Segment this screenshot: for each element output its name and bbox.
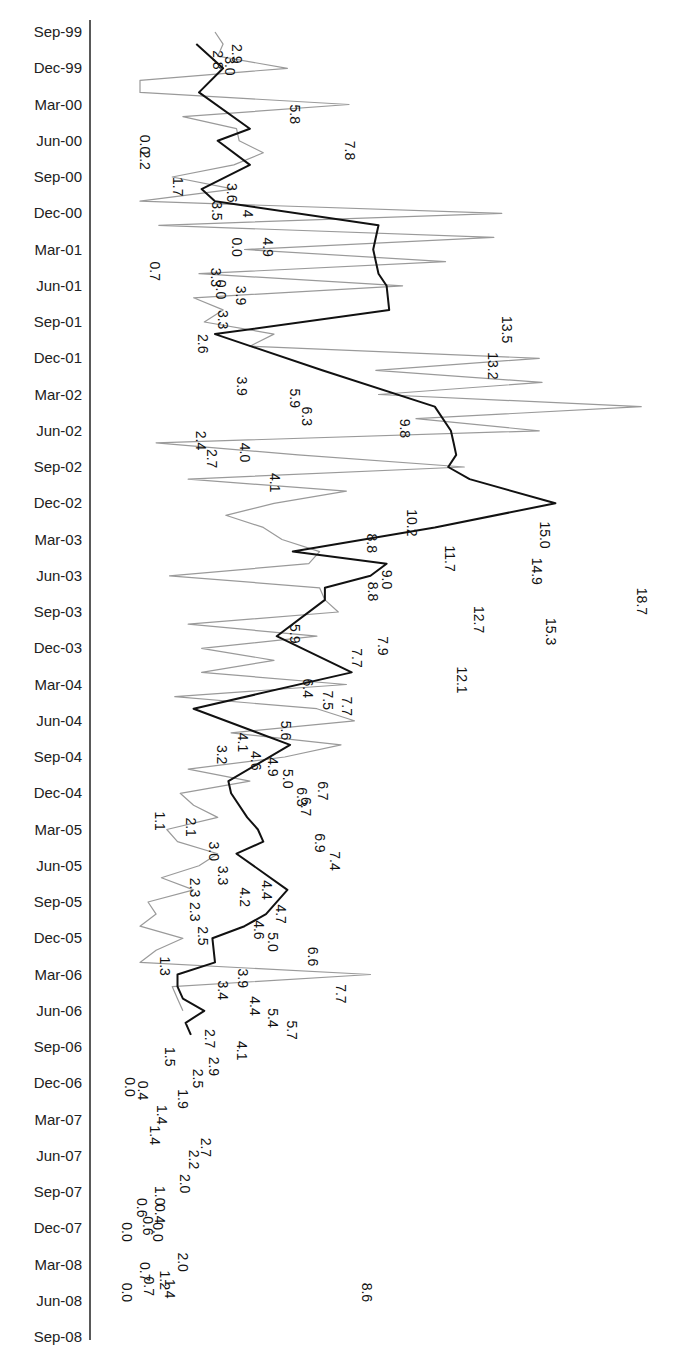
data-point-label: 5.0 — [280, 769, 296, 789]
data-point-label: 5.6 — [278, 721, 294, 741]
time-tick-label: Sep-99 — [34, 23, 82, 40]
data-point-label: 3.5 — [209, 201, 225, 221]
data-point-label: 12.7 — [471, 606, 487, 633]
data-point-label: 7.8 — [342, 141, 358, 161]
data-point-label: 4.6 — [251, 920, 267, 940]
time-tick-label: Dec-02 — [34, 494, 82, 511]
time-tick-label: Dec-99 — [34, 59, 82, 76]
data-point-label: 7.4 — [327, 851, 343, 871]
data-point-label: 2.6 — [195, 334, 211, 354]
data-point-label: 6.7 — [298, 797, 314, 817]
time-tick-label: Dec-00 — [34, 204, 82, 221]
data-point-label: 4.6 — [248, 751, 264, 771]
data-point-label: 6.3 — [299, 407, 315, 427]
time-tick-label: Sep-05 — [34, 893, 82, 910]
time-tick-label: Dec-05 — [34, 929, 82, 946]
data-point-label: 4.4 — [247, 996, 263, 1016]
data-point-label: 0.0 — [119, 1283, 135, 1303]
data-point-label: 8.8 — [365, 582, 381, 602]
time-tick-label: Jun-05 — [36, 857, 82, 874]
data-point-label: 4 — [240, 210, 256, 218]
data-point-label: 6.7 — [315, 781, 331, 801]
data-point-label: 18.7 — [634, 588, 650, 615]
data-labels: 2.92.83.05.87.80.02.21.73.63.540.04.90.7… — [119, 44, 650, 1302]
data-point-label: 7.9 — [375, 636, 391, 656]
time-tick-label: Dec-03 — [34, 639, 82, 656]
time-tick-label: Dec-06 — [34, 1074, 82, 1091]
data-point-label: 0.7 — [141, 1277, 157, 1297]
time-tick-label: Mar-00 — [34, 96, 82, 113]
data-point-label: 7.7 — [349, 648, 365, 668]
data-point-label: 15.0 — [537, 521, 553, 548]
data-point-label: 0.0 — [119, 1222, 135, 1242]
data-point-label: 2.7 — [204, 449, 220, 469]
data-point-label: 4.7 — [273, 904, 289, 924]
data-point-label: 3.9 — [233, 286, 249, 306]
data-point-label: 2.3 — [187, 878, 203, 898]
data-point-label: 7.5 — [320, 691, 336, 711]
time-tick-label: Dec-01 — [34, 349, 82, 366]
data-point-label: 4.9 — [260, 237, 276, 257]
time-tick-label: Mar-05 — [34, 821, 82, 838]
time-tick-label: Sep-00 — [34, 168, 82, 185]
data-point-label: 1.0 — [152, 1186, 168, 1206]
data-point-label: 4.0 — [237, 443, 253, 463]
time-tick-label: Jun-06 — [36, 1002, 82, 1019]
time-tick-label: Sep-02 — [34, 458, 82, 475]
time-tick-label: Jun-03 — [36, 567, 82, 584]
time-tick-label: Mar-01 — [34, 241, 82, 258]
time-tick-label: Mar-03 — [34, 531, 82, 548]
data-point-label: 4.1 — [234, 1041, 250, 1061]
data-point-label: 3.9 — [234, 376, 250, 396]
time-tick-label: Mar-06 — [34, 966, 82, 983]
data-point-label: 2.5 — [190, 1069, 206, 1089]
time-tick-label: Mar-04 — [34, 676, 82, 693]
data-point-label: 0.0 — [213, 280, 229, 300]
time-tick-label: Sep-08 — [34, 1328, 82, 1345]
data-point-label: 0.6 — [134, 1198, 150, 1218]
data-point-label: 3.0 — [222, 56, 238, 76]
time-tick-label: Jun-07 — [36, 1147, 82, 1164]
data-point-label: 2.0 — [175, 1252, 191, 1272]
time-tick-label: Sep-03 — [34, 603, 82, 620]
time-tick-label: Mar-08 — [34, 1256, 82, 1273]
data-point-label: 1.9 — [175, 1089, 191, 1109]
time-tick-label: Sep-06 — [34, 1038, 82, 1055]
data-point-label: 6.6 — [305, 947, 321, 967]
time-tick-label: Sep-07 — [34, 1183, 82, 1200]
data-point-label: 4.4 — [259, 880, 275, 900]
data-point-label: 4.1 — [267, 473, 283, 493]
time-tick-label: Jun-02 — [36, 422, 82, 439]
time-tick-label: Jun-00 — [36, 132, 82, 149]
data-point-label: 13.5 — [499, 316, 515, 343]
data-point-label: 2.3 — [187, 902, 203, 922]
data-point-label: 8.6 — [359, 1283, 375, 1303]
data-point-label: 6.9 — [312, 833, 328, 853]
data-point-label: 1.5 — [162, 1047, 178, 1067]
time-tick-label: Jun-01 — [36, 277, 82, 294]
data-point-label: 3.6 — [224, 183, 240, 203]
data-point-label: 1.4 — [162, 1279, 178, 1299]
data-point-label: 12.1 — [454, 666, 470, 693]
data-point-label: 5.8 — [287, 105, 303, 125]
time-tick-label: Jun-08 — [36, 1292, 82, 1309]
rotated-line-chart: Sep-99Dec-99Mar-00Jun-00Sep-00Dec-00Mar-… — [0, 0, 674, 1369]
data-point-label: 2.2 — [186, 1150, 202, 1170]
time-tick-label: Sep-01 — [34, 313, 82, 330]
data-point-label: 2.9 — [206, 1057, 222, 1077]
series-monthly-gray — [140, 32, 641, 1011]
data-point-label: 7.7 — [339, 697, 355, 717]
data-point-label: 3.9 — [235, 968, 251, 988]
time-tick-label: Dec-04 — [34, 784, 82, 801]
data-point-label: 2.2 — [137, 150, 153, 170]
data-point-label: 3.2 — [214, 745, 230, 765]
time-tick-label: Sep-04 — [34, 748, 82, 765]
data-point-label: 1.4 — [154, 1105, 170, 1125]
data-point-label: 3.4 — [215, 981, 231, 1001]
data-point-label: 9.8 — [397, 419, 413, 439]
data-point-label: 13.2 — [485, 352, 501, 379]
data-point-label: 6.4 — [300, 678, 316, 698]
time-tick-label: Dec-07 — [34, 1219, 82, 1236]
data-point-label: 4.9 — [265, 757, 281, 777]
data-point-label: 15.3 — [543, 618, 559, 645]
